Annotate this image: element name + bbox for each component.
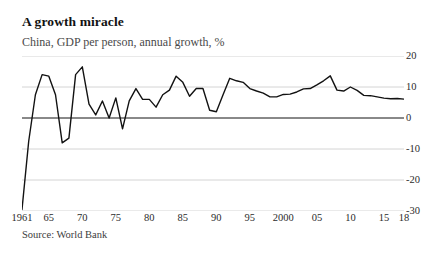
x-axis-tick-label: 80 xyxy=(133,212,165,223)
chart-container: A growth miracle China, GDP per person, … xyxy=(0,0,445,255)
y-axis-tick-label: -10 xyxy=(406,143,420,154)
x-axis-tick-label: 95 xyxy=(234,212,266,223)
x-axis-tick-label: 70 xyxy=(66,212,98,223)
plot-area xyxy=(22,56,404,211)
gridlines xyxy=(22,56,404,211)
chart-title: A growth miracle xyxy=(22,14,124,30)
x-axis-tick-label: 10 xyxy=(334,212,366,223)
x-axis-tick-label: 05 xyxy=(301,212,333,223)
chart-subtitle: China, GDP per person, annual growth, % xyxy=(22,35,225,50)
x-axis-tick-label: 85 xyxy=(167,212,199,223)
y-axis-tick-label: 10 xyxy=(406,81,417,92)
data-line-series-1 xyxy=(22,67,404,210)
x-axis-tick-label: 2000 xyxy=(267,212,299,223)
y-axis-labels: 20100-10-20-30 xyxy=(406,48,440,218)
x-axis-tick-label: 90 xyxy=(200,212,232,223)
y-axis-tick-label: 20 xyxy=(406,50,417,61)
y-axis-tick-label: -20 xyxy=(406,174,420,185)
chart-svg xyxy=(22,56,404,211)
source-note: Source: World Bank xyxy=(22,229,107,240)
x-axis-labels: 196165707580859095200005101518 xyxy=(22,212,404,228)
x-axis-tick-label: 65 xyxy=(33,212,65,223)
x-axis-tick-label: 75 xyxy=(100,212,132,223)
y-axis-tick-label: 0 xyxy=(406,112,411,123)
x-axis-tick-label: 18 xyxy=(388,212,420,223)
